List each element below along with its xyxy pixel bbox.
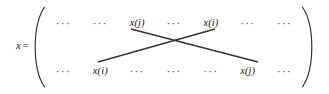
matrix-cell: ··· — [266, 63, 303, 79]
matrix-cell: ··· — [156, 15, 193, 31]
matrix-cell: ··· — [82, 15, 119, 31]
equation-left-hand-side: x= — [16, 37, 29, 53]
matrix-cell: ··· — [45, 15, 82, 31]
matrix-cell: ··· — [119, 63, 156, 79]
matrix-cell: ··· — [192, 63, 229, 79]
matrix-cell: ··· — [229, 15, 266, 31]
matrix-cell: ··· — [45, 63, 82, 79]
matrix-cell: ··· — [266, 15, 303, 31]
matrix-cell-xj-top: x(j) — [119, 15, 156, 31]
matrix-cell: ··· — [156, 63, 193, 79]
matrix-crossover-figure: x= ··· ··· x(j) ··· x(i) ··· ··· ··· x(i… — [0, 0, 329, 94]
matrix-row-top: ··· ··· x(j) ··· x(i) ··· ··· — [45, 15, 303, 31]
matrix-cell-xi-top: x(i) — [192, 15, 229, 31]
matrix-body: ··· ··· x(j) ··· x(i) ··· ··· ··· x(i) ·… — [45, 6, 303, 88]
equals-sign: = — [21, 39, 29, 51]
matrix-cell-xi-bottom: x(i) — [82, 63, 119, 79]
matrix-row-bottom: ··· x(i) ··· ··· ··· x(j) ··· — [45, 63, 303, 79]
matrix-cell-xj-bottom: x(j) — [229, 63, 266, 79]
